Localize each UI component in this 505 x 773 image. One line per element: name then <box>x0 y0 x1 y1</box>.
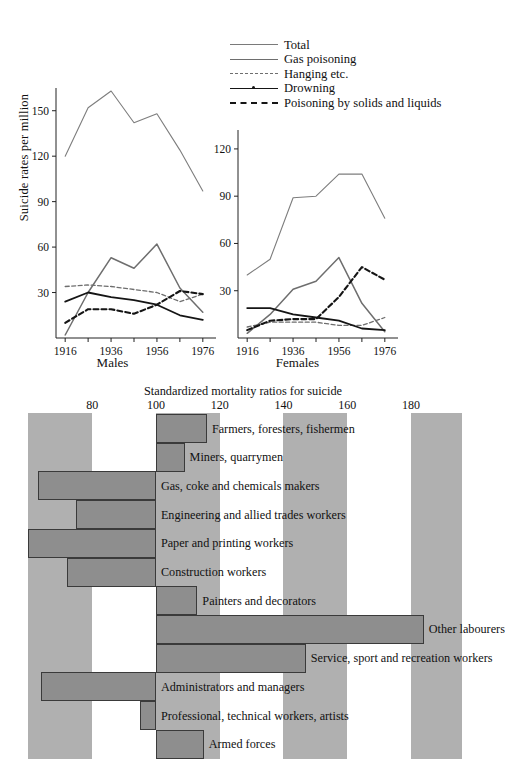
bar-label: Other labourers <box>424 622 505 637</box>
smr-tick-120: 120 <box>211 398 229 413</box>
bar-label: Armed forces <box>204 737 276 752</box>
y-tick-males-150: 150 <box>32 105 50 117</box>
bar-row[interactable]: Gas, coke and chemicals makers <box>0 471 480 500</box>
bar-label: Professional, technical workers, artists <box>156 708 349 723</box>
bar-label: Administrators and managers <box>156 679 305 694</box>
y-tick-males-30: 30 <box>38 287 50 299</box>
bar-label: Farmers, foresters, fishermen <box>207 421 355 436</box>
suicide-rates-line-charts: Suicide rates per million Total Gas pois… <box>0 0 480 382</box>
bar-row[interactable]: Paper and printing workers <box>0 529 480 558</box>
bar-label: Miners, quarrymen <box>185 450 283 465</box>
bar-row[interactable]: Farmers, foresters, fishermen <box>0 414 480 443</box>
y-tick-females-60: 60 <box>220 237 232 249</box>
bar-row[interactable]: Miners, quarrymen <box>0 443 480 472</box>
panel-caption-males: Males <box>40 355 185 371</box>
bar[interactable] <box>156 644 306 673</box>
panel-females: 3060901201916193619561976 <box>214 130 398 357</box>
smr-tick-100: 100 <box>147 398 165 413</box>
y-tick-males-90: 90 <box>38 196 50 208</box>
series-females-hanging-etc <box>247 318 385 328</box>
panel-males: 3060901201501916193619561976 <box>32 88 216 357</box>
y-tick-males-120: 120 <box>32 150 50 162</box>
smr-chart-title: Standardized mortality ratios for suicid… <box>0 384 480 399</box>
bar-row[interactable]: Engineering and allied trades workers <box>0 500 480 529</box>
bar-label: Gas, coke and chemicals makers <box>156 478 320 493</box>
bar-row[interactable]: Administrators and managers <box>0 672 480 701</box>
line-plot-canvas: 3060901201501916193619561976306090120191… <box>0 0 480 382</box>
bar-label: Service, sport and recreation workers <box>306 651 493 666</box>
bar[interactable] <box>76 500 156 529</box>
y-tick-males-60: 60 <box>38 241 50 253</box>
smr-tick-140: 140 <box>274 398 292 413</box>
bar-label: Paper and printing workers <box>156 536 293 551</box>
y-tick-females-90: 90 <box>220 190 232 202</box>
bar-label: Painters and decorators <box>197 593 316 608</box>
smr-tick-160: 160 <box>338 398 356 413</box>
bar[interactable] <box>38 471 156 500</box>
x-tick-females-1976: 1976 <box>373 345 396 357</box>
series-males-total <box>65 91 203 191</box>
bar[interactable] <box>67 558 156 587</box>
bar-row[interactable]: Professional, technical workers, artists <box>0 701 480 730</box>
series-females-drowning <box>247 308 385 330</box>
bar[interactable] <box>156 586 197 615</box>
bar-label: Construction workers <box>156 565 266 580</box>
bar[interactable] <box>28 529 156 558</box>
bar-row[interactable]: Construction workers <box>0 558 480 587</box>
smr-tick-180: 180 <box>402 398 420 413</box>
smr-bars: Farmers, foresters, fishermenMiners, qua… <box>0 413 480 759</box>
y-tick-females-120: 120 <box>214 143 232 155</box>
bar[interactable] <box>140 701 156 730</box>
y-tick-females-30: 30 <box>220 285 232 297</box>
smr-bar-chart: Standardized mortality ratios for suicid… <box>0 382 480 773</box>
smr-tick-80: 80 <box>86 398 98 413</box>
bar[interactable] <box>156 443 185 472</box>
series-females-poisoning-by-solids-and-liquids <box>247 267 385 330</box>
bar-row[interactable]: Other labourers <box>0 615 480 644</box>
bar[interactable] <box>156 414 207 443</box>
bar[interactable] <box>156 730 204 759</box>
bar-row[interactable]: Painters and decorators <box>0 586 480 615</box>
x-tick-males-1976: 1976 <box>191 345 214 357</box>
bar[interactable] <box>41 672 156 701</box>
bar-label: Engineering and allied trades workers <box>156 507 346 522</box>
bar-row[interactable]: Armed forces <box>0 730 480 759</box>
bar-row[interactable]: Service, sport and recreation workers <box>0 644 480 673</box>
panel-caption-females: Females <box>225 355 370 371</box>
series-females-total <box>247 174 385 275</box>
bar[interactable] <box>156 615 424 644</box>
